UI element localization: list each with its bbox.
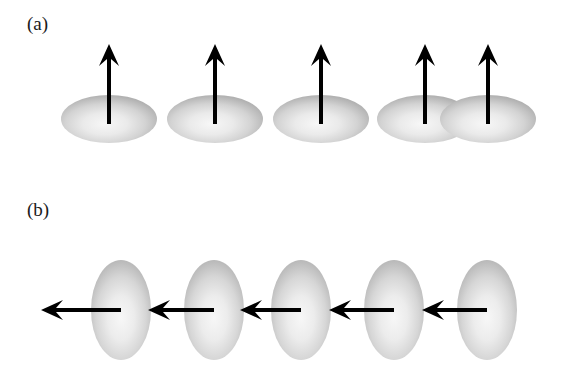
figure-canvas: (a) (b) bbox=[0, 0, 561, 374]
diagram-svg bbox=[0, 0, 561, 374]
panel-a-ellipse-group bbox=[61, 95, 536, 143]
